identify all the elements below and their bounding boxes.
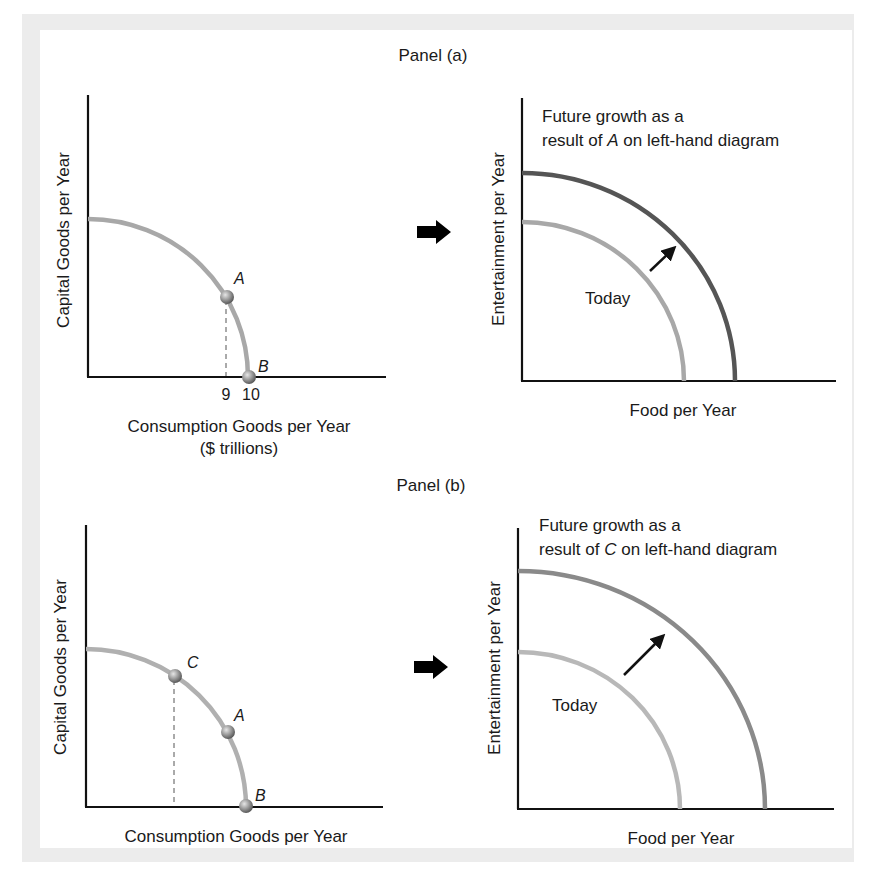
- figure-canvas: Panel (a) A B 9 10 Consumption Goods per…: [0, 0, 876, 880]
- y-axis-label: Entertainment per Year: [489, 152, 508, 326]
- ppc-future-curve: [518, 571, 765, 809]
- panel-a-left-chart: A B 9 10 Consumption Goods per Year ($ t…: [54, 95, 386, 458]
- panel-a-title: Panel (a): [399, 46, 468, 65]
- x-axis-label: Consumption Goods per Year: [124, 827, 347, 846]
- panel-b-right-chart: Today Future growth as a result of C on …: [485, 516, 834, 848]
- shift-arrow-icon: [624, 639, 660, 675]
- x-axis-label: Consumption Goods per Year: [127, 417, 350, 436]
- panel-a-right-chart: Today Future growth as a result of A on …: [489, 98, 836, 420]
- y-axis-label: Capital Goods per Year: [51, 579, 70, 755]
- tick-10: 10: [242, 386, 260, 403]
- point-B: [239, 799, 253, 813]
- tick-9: 9: [222, 386, 231, 403]
- y-axis-label: Entertainment per Year: [485, 581, 504, 755]
- x-axis-label: Food per Year: [630, 401, 737, 420]
- ppc-today-curve: [518, 652, 680, 809]
- right-arrow-icon: [417, 220, 451, 244]
- point-A: [221, 725, 235, 739]
- annotation-line2: result of A on left-hand diagram: [542, 131, 779, 150]
- y-axis-label: Capital Goods per Year: [54, 152, 73, 328]
- point-B: [242, 370, 256, 384]
- label-A: A: [233, 270, 245, 287]
- shift-arrow-icon: [650, 251, 671, 271]
- ppc-future-curve: [522, 173, 735, 381]
- panel-b-left-chart: C A B Consumption Goods per Year Capital…: [51, 525, 383, 846]
- x-axis-unit: ($ trillions): [200, 439, 278, 458]
- point-C: [168, 669, 182, 683]
- annotation-line2: result of C on left-hand diagram: [539, 540, 777, 559]
- annotation-line1: Future growth as a: [542, 107, 684, 126]
- annotation-line1: Future growth as a: [539, 516, 681, 535]
- x-axis-label: Food per Year: [628, 829, 735, 848]
- ppc-curve: [86, 649, 246, 807]
- label-B: B: [255, 787, 266, 804]
- today-label: Today: [585, 289, 631, 308]
- right-arrow-icon: [414, 655, 448, 679]
- today-label: Today: [552, 696, 598, 715]
- panel-b-title: Panel (b): [397, 476, 466, 495]
- label-C: C: [187, 654, 199, 671]
- label-A: A: [233, 707, 245, 724]
- label-B: B: [258, 358, 269, 375]
- point-A: [220, 290, 234, 304]
